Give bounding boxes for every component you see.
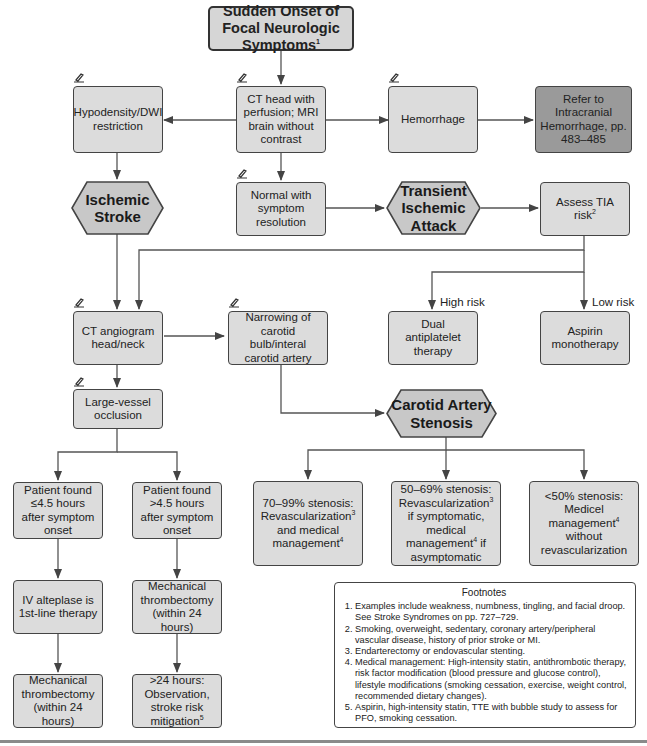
footnote-item: Aspirin, high-intensity statin, TTE with… — [355, 702, 627, 724]
node-stenosis-lt50-label: <50% stenosis: Medicel management4 witho… — [534, 490, 634, 558]
node-observation: >24 hours: Observation, stroke risk miti… — [132, 674, 222, 728]
node-thrombectomy-late: Mechanical thrombectomy (within 24 hours… — [132, 580, 222, 634]
node-stenosis-50-69: 50–69% stenosis: Revascularization3 if s… — [391, 481, 501, 566]
pencil-edit-icon[interactable] — [73, 297, 85, 308]
footnotes-list: Examples include weakness, numbness, tin… — [341, 601, 627, 724]
node-cta-label: CT angiogram head/neck — [78, 325, 158, 352]
node-start-label: Sudden Onset of Focal Neurologic Symptom… — [214, 3, 348, 54]
node-cta: CT angiogram head/neck — [73, 311, 163, 365]
node-early: Patient found ≤4.5 hours after symptom o… — [13, 482, 103, 539]
node-late-label: Patient found >4.5 hours after symptom o… — [137, 484, 217, 538]
footnote-item: Smoking, overweight, sedentary, coronary… — [355, 624, 627, 646]
footnote-item: Medical management: High-intensity stati… — [355, 657, 627, 702]
node-stenosis-50-69-label: 50–69% stenosis: Revascularization3 if s… — [396, 483, 496, 564]
node-hemorrhage: Hemorrhage — [388, 86, 478, 153]
node-thrombectomy-early-label: Mechanical thrombectomy (within 24 hours… — [18, 674, 98, 728]
node-ischemic-stroke: IschemicStroke — [71, 181, 164, 235]
edge-label-high-risk: High risk — [440, 296, 485, 308]
node-dapt: Dual antiplatelet therapy — [388, 311, 478, 365]
node-thrombectomy-late-label: Mechanical thrombectomy (within 24 hours… — [137, 580, 217, 634]
node-late: Patient found >4.5 hours after symptom o… — [132, 482, 222, 539]
edge-label-low-risk: Low risk — [592, 296, 634, 308]
node-alteplase: IV alteplase is 1st-line therapy — [13, 580, 103, 634]
node-lvo: Large-vessel occlusion — [73, 389, 163, 429]
node-start: Sudden Onset of Focal Neurologic Symptom… — [208, 6, 354, 51]
pencil-edit-icon[interactable] — [236, 168, 248, 179]
node-tia-label: TransientIschemicAttack — [400, 182, 467, 235]
pencil-edit-icon[interactable] — [228, 297, 240, 308]
node-imaging-label: CT head with perfusion; MRI brain withou… — [241, 93, 321, 147]
node-lvo-label: Large-vessel occlusion — [78, 396, 158, 423]
node-assess-tia: Assess TIA risk2 — [540, 182, 630, 236]
node-thrombectomy-early: Mechanical thrombectomy (within 24 hours… — [13, 674, 103, 728]
bottom-divider — [0, 740, 647, 743]
footnote-item: Examples include weakness, numbness, tin… — [355, 601, 627, 623]
node-assess-tia-label: Assess TIA risk2 — [545, 196, 625, 223]
footnotes-panel: Footnotes Examples include weakness, num… — [334, 582, 636, 728]
node-dapt-label: Dual antiplatelet therapy — [393, 318, 473, 359]
node-stenosis-70-99: 70–99% stenosis: Revascularization3 and … — [253, 481, 363, 566]
node-early-label: Patient found ≤4.5 hours after symptom o… — [18, 484, 98, 538]
node-refer-ich-label: Refer to Intracranial Hemorrhage, pp. 48… — [540, 93, 627, 147]
node-refer-ich[interactable]: Refer to Intracranial Hemorrhage, pp. 48… — [535, 86, 632, 153]
node-imaging: CT head with perfusion; MRI brain withou… — [236, 86, 326, 153]
node-observation-label: >24 hours: Observation, stroke risk miti… — [137, 674, 217, 728]
node-normal: Normal with symptom resolution — [236, 182, 326, 236]
node-carotid-stenosis: Carotid ArteryStenosis — [386, 389, 497, 438]
pencil-edit-icon[interactable] — [73, 376, 85, 387]
node-carotid-stenosis-label: Carotid ArteryStenosis — [391, 396, 491, 431]
node-aspirin: Aspirin monotherapy — [540, 311, 630, 365]
node-narrowing: Narrowing of carotid bulb/interal caroti… — [228, 311, 328, 365]
pencil-edit-icon[interactable] — [236, 72, 248, 83]
node-stenosis-lt50: <50% stenosis: Medicel management4 witho… — [529, 481, 639, 566]
node-normal-label: Normal with symptom resolution — [241, 189, 321, 230]
node-alteplase-label: IV alteplase is 1st-line therapy — [18, 594, 98, 621]
node-hypodensity: Hypodensity/DWI restriction — [73, 86, 163, 153]
node-aspirin-label: Aspirin monotherapy — [545, 325, 625, 352]
footnotes-title: Footnotes — [341, 587, 627, 598]
pencil-edit-icon[interactable] — [388, 72, 400, 83]
pencil-edit-icon[interactable] — [73, 72, 85, 83]
node-stenosis-70-99-label: 70–99% stenosis: Revascularization3 and … — [258, 497, 358, 551]
node-tia: TransientIschemicAttack — [386, 181, 481, 235]
node-narrowing-label: Narrowing of carotid bulb/interal caroti… — [233, 311, 323, 365]
node-hemorrhage-label: Hemorrhage — [401, 113, 465, 127]
node-hypodensity-label: Hypodensity/DWI restriction — [74, 106, 163, 133]
footnote-item: Endarterectomy or endovascular stenting. — [355, 646, 627, 657]
node-ischemic-stroke-label: IschemicStroke — [85, 191, 149, 226]
